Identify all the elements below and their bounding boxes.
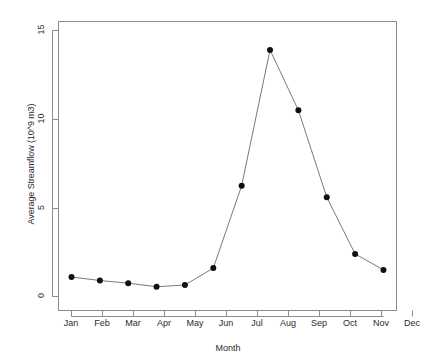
data-point-aug bbox=[267, 47, 273, 53]
series-line-average-streamflow bbox=[72, 50, 384, 287]
data-point-jul bbox=[239, 183, 245, 189]
data-point-jun bbox=[210, 265, 216, 271]
data-point-may bbox=[182, 282, 188, 288]
x-axis bbox=[72, 311, 413, 317]
data-point-apr bbox=[154, 284, 160, 290]
data-point-mar bbox=[125, 280, 131, 286]
data-point-feb bbox=[97, 278, 103, 284]
series-markers bbox=[69, 47, 387, 290]
data-point-jan bbox=[69, 274, 75, 280]
data-point-sep bbox=[295, 107, 301, 113]
data-point-oct bbox=[324, 194, 330, 200]
plot-frame bbox=[59, 22, 397, 311]
y-axis bbox=[53, 31, 59, 297]
data-point-nov bbox=[352, 251, 358, 257]
data-point-dec bbox=[380, 267, 386, 273]
